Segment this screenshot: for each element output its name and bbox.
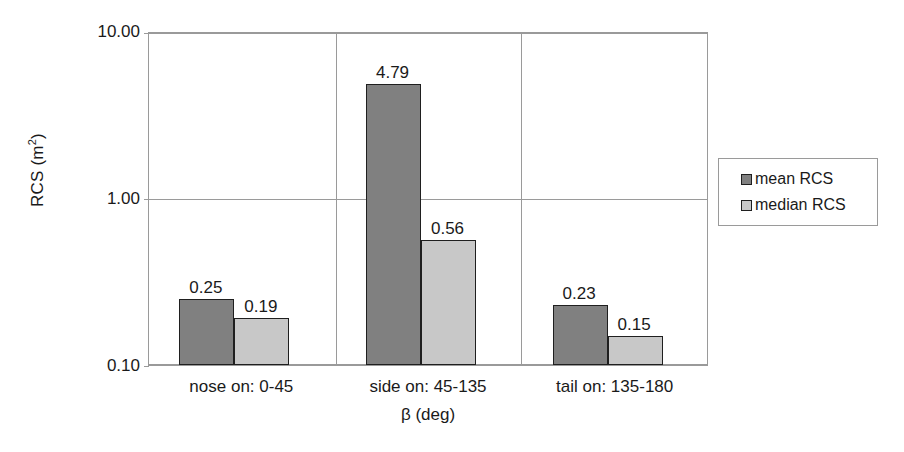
category-separator-1 (336, 33, 337, 365)
y-tick-mark-10 (144, 33, 149, 34)
bar-value-label: 0.15 (595, 316, 674, 334)
gridline-1 (149, 199, 707, 200)
bar-mean (553, 305, 608, 365)
y-axis-tick-label: 0.10 (54, 357, 140, 375)
legend-item-median[interactable]: median RCS (741, 192, 877, 218)
legend-label-median: median RCS (755, 196, 846, 214)
y-axis-tick-label: 10.00 (54, 23, 140, 41)
bar-value-label: 4.79 (353, 64, 432, 82)
legend-swatch-mean-icon (741, 174, 752, 185)
y-axis-title-exponent: 2 (26, 139, 38, 145)
legend-item-mean[interactable]: mean RCS (741, 166, 877, 192)
gridline-10 (149, 33, 707, 34)
bar-value-label: 0.23 (540, 285, 619, 303)
rcs-bar-chart: RCS (m2) 10.001.000.10 0.250.194.790.560… (0, 0, 904, 452)
bar-median (234, 318, 289, 365)
x-axis-category-label: tail on: 135-180 (521, 377, 708, 397)
bar-median (421, 240, 476, 365)
y-axis-tick-label: 1.00 (54, 190, 140, 208)
legend-label-mean: mean RCS (755, 170, 833, 188)
y-axis-title-base: RCS (m (28, 145, 47, 207)
bar-value-label: 0.56 (408, 220, 487, 238)
y-tick-mark-0point1 (144, 366, 149, 367)
bar-value-label: 0.25 (166, 279, 245, 297)
x-axis-category-label: nose on: 0-45 (148, 377, 335, 397)
bar-value-label: 0.19 (221, 298, 300, 316)
bar-median (608, 336, 663, 365)
y-axis-title-tail: ) (28, 133, 47, 139)
x-axis-title: β (deg) (148, 405, 708, 425)
legend: mean RCS median RCS (718, 158, 878, 226)
y-axis-tick-labels: 10.001.000.10 (50, 0, 140, 452)
legend-swatch-median-icon (741, 200, 752, 211)
category-separator-2 (521, 33, 522, 365)
x-axis-category-label: side on: 45-135 (335, 377, 522, 397)
y-axis-title: RCS (m2) (28, 80, 48, 260)
y-tick-mark-1 (144, 199, 149, 200)
